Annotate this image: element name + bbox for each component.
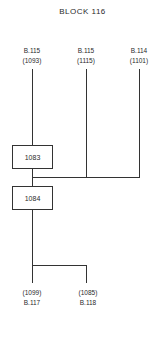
- output-block: B.117: [12, 298, 52, 308]
- source-lot: (1115): [66, 56, 106, 66]
- source-label-3: B.114 (1101): [119, 46, 159, 66]
- connector-line: [139, 69, 140, 177]
- diagram-title: BLOCK 116: [0, 7, 165, 16]
- source-label-1: B.115 (1093): [12, 46, 52, 66]
- output-lot: (1085): [68, 288, 108, 298]
- connector-line: [32, 69, 33, 145]
- connector-line: [86, 265, 87, 283]
- source-block: B.114: [119, 46, 159, 56]
- source-label-2: B.115 (1115): [66, 46, 106, 66]
- output-lot: (1099): [12, 288, 52, 298]
- node-box-1083: 1083: [12, 145, 53, 169]
- node-box-1084: 1084: [12, 186, 53, 210]
- connector-line: [32, 265, 87, 266]
- output-label-2: (1085) B.118: [68, 288, 108, 308]
- source-lot: (1101): [119, 56, 159, 66]
- source-block: B.115: [66, 46, 106, 56]
- connector-line: [32, 177, 140, 178]
- connector-line: [32, 209, 33, 283]
- source-lot: (1093): [12, 56, 52, 66]
- connector-line: [86, 69, 87, 177]
- output-label-1: (1099) B.117: [12, 288, 52, 308]
- source-block: B.115: [12, 46, 52, 56]
- output-block: B.118: [68, 298, 108, 308]
